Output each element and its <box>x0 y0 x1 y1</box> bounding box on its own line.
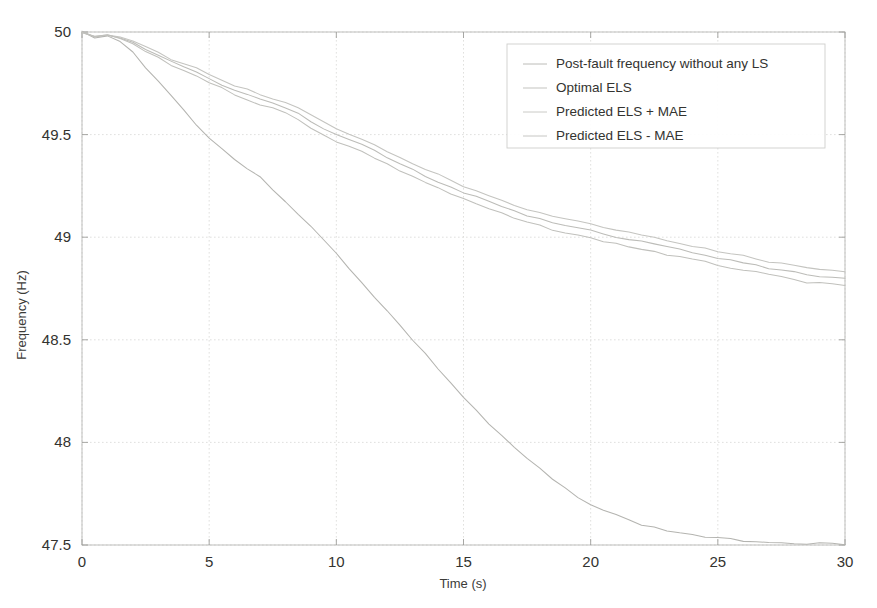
y-axis-tick-labels: 47.54848.54949.550 <box>42 23 71 553</box>
x-tick-label: 5 <box>205 553 213 570</box>
line-chart: 051015202530 47.54848.54949.550 Time (s)… <box>0 0 877 608</box>
x-tick-label: 30 <box>837 553 854 570</box>
x-tick-label: 20 <box>582 553 599 570</box>
legend-label-3: Predicted ELS - MAE <box>556 128 684 143</box>
x-tick-label: 10 <box>328 553 345 570</box>
x-tick-label: 0 <box>78 553 86 570</box>
legend-label-1: Optimal ELS <box>556 80 632 95</box>
x-axis-tick-labels: 051015202530 <box>78 553 854 570</box>
x-axis-title: Time (s) <box>439 576 486 591</box>
y-tick-label: 48.5 <box>42 331 71 348</box>
y-tick-label: 48 <box>54 433 71 450</box>
figure-canvas: 051015202530 47.54848.54949.550 Time (s)… <box>0 0 877 608</box>
legend-label-0: Post-fault frequency without any LS <box>556 56 768 71</box>
legend-label-2: Predicted ELS + MAE <box>556 104 687 119</box>
chart-legend: Post-fault frequency without any LSOptim… <box>507 44 825 148</box>
x-tick-label: 15 <box>455 553 472 570</box>
y-tick-label: 50 <box>54 23 71 40</box>
y-tick-label: 47.5 <box>42 536 71 553</box>
y-tick-label: 49.5 <box>42 126 71 143</box>
y-tick-label: 49 <box>54 228 71 245</box>
y-axis-title: Frequency (Hz) <box>14 270 29 360</box>
x-tick-label: 25 <box>709 553 726 570</box>
